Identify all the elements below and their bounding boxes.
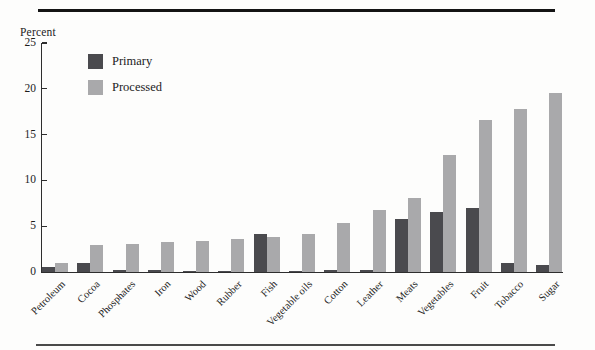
bar-primary [466,208,479,272]
bar-primary [289,271,302,272]
x-axis-label: Sugar [537,279,562,304]
x-axis-label: Rubber [215,279,244,308]
bar-group: Meats [395,43,421,272]
top-rule [38,9,555,12]
legend-swatch-processed-icon [88,80,103,95]
bar-processed [55,263,68,272]
legend-item-primary: Primary [88,54,162,69]
bar-primary [324,270,337,272]
plot-area: 0510152025 PetroleumCocoaPhosphatesIronW… [41,43,563,273]
bar-processed [231,239,244,272]
bar-processed [408,198,421,272]
x-axis-label: Iron [154,279,174,299]
bar-processed [90,245,103,272]
x-axis-label: Leather [355,279,385,309]
bar-group: Rubber [218,43,244,272]
bar-group: Leather [360,43,386,272]
y-tick-label: 0 [30,266,36,278]
bar-primary [430,212,443,272]
x-axis-label: Cotton [322,279,350,307]
bar-processed [267,237,280,272]
bar-primary [148,270,161,272]
bar-group: Sugar [536,43,562,272]
bar-primary [113,270,126,272]
bar-group: Tobacco [501,43,527,272]
x-axis-label: Cocoa [76,279,102,305]
x-axis-label: Fruit [469,279,491,301]
bar-primary [77,263,90,272]
bar-primary [183,271,196,272]
x-axis-label: Fish [259,279,279,299]
bar-group: Fish [254,43,280,272]
bar-primary [536,265,549,272]
bottom-rule [36,344,555,346]
x-axis-label: Tobacco [494,279,526,311]
x-axis-label: Meats [395,279,421,305]
bar-primary [218,271,231,272]
x-axis-label: Phosphates [97,279,138,320]
bar-primary [395,219,408,272]
legend-swatch-primary-icon [88,54,103,69]
y-tick-label: 20 [25,83,37,95]
bar-primary [360,270,373,272]
bar-primary [501,263,514,272]
legend: Primary Processed [88,54,162,95]
bar-processed [514,109,527,272]
bar-primary [254,234,267,272]
legend-label-processed: Processed [112,80,162,95]
bar-processed [337,223,350,272]
bar-group: Fruit [466,43,492,272]
legend-label-primary: Primary [112,54,152,69]
bar-processed [443,155,456,272]
bar-processed [161,242,174,272]
x-axis-label: Wood [184,279,209,304]
bar-processed [373,210,386,272]
x-axis-label: Petroleum [29,279,67,317]
bar-processed [196,241,209,272]
bar-group: Wood [183,43,209,272]
bar-group: Vegetable oils [289,43,315,272]
bar-group: Petroleum [42,43,68,272]
y-tick-label: 15 [25,129,37,141]
y-tick-label: 10 [25,175,37,187]
bar-processed [479,120,492,272]
bar-group: Vegetables [430,43,456,272]
x-axis-label: Vegetables [416,279,456,319]
figure: Percent 0510152025 PetroleumCocoaPhospha… [0,0,595,350]
bar-primary [42,267,55,272]
bar-processed [549,93,562,272]
bar-processed [302,234,315,272]
legend-item-processed: Processed [88,80,162,95]
y-tick-label: 25 [25,37,37,49]
y-tick-label: 5 [30,220,36,232]
bar-processed [126,244,139,272]
bar-group: Cotton [324,43,350,272]
